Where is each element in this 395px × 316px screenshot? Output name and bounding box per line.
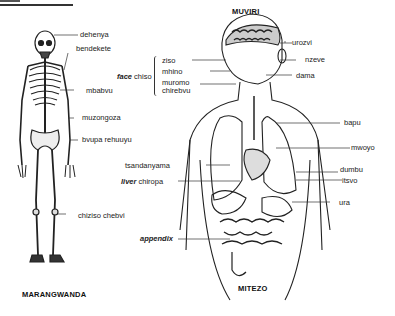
label-dumbu: dumbu: [340, 165, 363, 174]
label-bendekete: bendekete: [76, 44, 111, 53]
label-mwoyo: mwoyo: [351, 143, 375, 152]
label-bapu: bapu: [344, 118, 361, 127]
label-face-group: face chiso: [117, 72, 152, 81]
label-ziso: ziso: [162, 56, 175, 65]
label-mbabvu: mbabvu: [86, 86, 113, 95]
label-ura: ura: [339, 198, 350, 207]
label-liver-sn: chiropa: [139, 177, 164, 186]
label-nzeve: nzeve: [305, 55, 325, 64]
face-brace: [154, 56, 160, 96]
skeleton-figure: [18, 31, 75, 262]
label-face-en: face: [117, 72, 132, 81]
label-bvupa-rehuuyu: bvupa rehuuyu: [82, 135, 132, 144]
title-body: MUVIRI: [232, 7, 259, 16]
label-chiziso-chebvi: chiziso chebvi: [78, 211, 125, 220]
title-skeleton: MARANGWANDA: [22, 290, 86, 299]
label-dama: dama: [296, 71, 315, 80]
label-urozvi: urozvi: [292, 38, 312, 47]
title-organs: MITEZO: [238, 284, 268, 293]
anatomy-illustration: [0, 0, 395, 316]
label-muzongoza: muzongoza: [82, 113, 121, 122]
label-face-sn: chiso: [134, 72, 152, 81]
label-mhino: mhino: [162, 67, 182, 76]
skeleton-leader-lines: [54, 35, 78, 214]
label-appendix: appendix: [140, 234, 173, 243]
label-tsandanyama: tsandanyama: [125, 161, 170, 170]
label-itsvo: itsvo: [342, 176, 357, 185]
label-liver-group: liver chiropa: [121, 177, 163, 186]
label-dehenya: dehenya: [80, 30, 109, 39]
label-liver-en: liver: [121, 177, 136, 186]
label-chirebvu: chirebvu: [162, 86, 190, 95]
